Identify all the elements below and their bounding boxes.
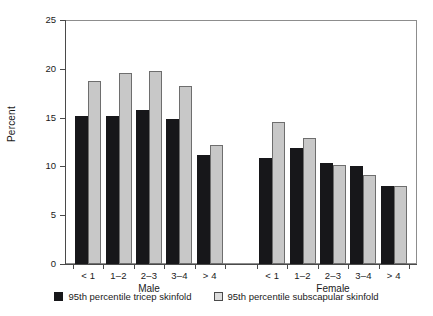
x-tick	[73, 264, 74, 269]
x-tick	[195, 264, 196, 269]
y-tick	[60, 20, 66, 21]
x-category-label: > 4	[387, 270, 401, 281]
bar-subscapular	[210, 145, 223, 264]
y-tick	[60, 264, 66, 265]
bar-tricep	[290, 148, 303, 264]
x-category-label: 1–2	[110, 270, 126, 281]
y-tick	[60, 118, 66, 119]
bar-tricep	[259, 158, 272, 264]
x-tick	[134, 264, 135, 269]
chart-legend: 95th percentile tricep skinfold95th perc…	[0, 291, 433, 302]
x-category-label: < 1	[265, 270, 279, 281]
x-tick	[257, 264, 258, 269]
x-category-label: 2–3	[141, 270, 157, 281]
x-tick	[103, 264, 104, 269]
bar-tricep	[166, 119, 179, 264]
bar-tricep	[350, 166, 363, 264]
bar-tricep	[136, 110, 149, 264]
bar-tricep	[106, 116, 119, 264]
bar-subscapular	[333, 165, 346, 264]
x-category-label: 2–3	[325, 270, 341, 281]
x-category-label: 3–4	[355, 270, 371, 281]
bar-tricep	[75, 116, 88, 264]
legend-label: 95th percentile tricep skinfold	[68, 291, 191, 302]
x-tick	[164, 264, 165, 269]
y-axis-line	[65, 20, 66, 264]
x-tick	[348, 264, 349, 269]
y-axis-title: Percent	[6, 106, 17, 142]
bar-subscapular	[363, 175, 376, 264]
bar-subscapular	[394, 186, 407, 264]
bar-subscapular	[119, 73, 132, 264]
y-tick-label: 25	[0, 15, 56, 25]
x-category-label: > 4	[203, 270, 217, 281]
x-category-label: 1–2	[294, 270, 310, 281]
bar-chart: 0510152025 < 11–22–33–4> 4< 11–22–33–4> …	[0, 0, 433, 316]
y-tick-label: 20	[0, 64, 56, 74]
y-tick-label: 5	[0, 210, 56, 220]
bar-tricep	[381, 186, 394, 264]
bar-subscapular	[272, 122, 285, 264]
bar-subscapular	[179, 86, 192, 264]
y-tick	[60, 215, 66, 216]
y-tick	[60, 166, 66, 167]
bar-tricep	[197, 155, 210, 264]
y-tick	[60, 69, 66, 70]
bars-layer	[65, 20, 417, 264]
y-tick-label: 0	[0, 259, 56, 269]
x-tick	[379, 264, 380, 269]
y-tick-label: 10	[0, 162, 56, 172]
legend-label: 95th percentile subscapular skinfold	[228, 291, 379, 302]
x-tick	[409, 264, 410, 269]
legend-item: 95th percentile subscapular skinfold	[214, 291, 379, 302]
legend-item: 95th percentile tricep skinfold	[54, 291, 191, 302]
bar-subscapular	[88, 81, 101, 264]
bar-tricep	[320, 163, 333, 265]
bar-subscapular	[303, 138, 316, 264]
legend-swatch-dark	[54, 292, 63, 301]
x-category-label: < 1	[81, 270, 95, 281]
x-category-label: 3–4	[171, 270, 187, 281]
x-tick	[225, 264, 226, 269]
legend-swatch-light	[214, 292, 223, 301]
x-tick	[318, 264, 319, 269]
x-tick	[287, 264, 288, 269]
bar-subscapular	[149, 71, 162, 264]
x-axis-line	[65, 264, 417, 265]
